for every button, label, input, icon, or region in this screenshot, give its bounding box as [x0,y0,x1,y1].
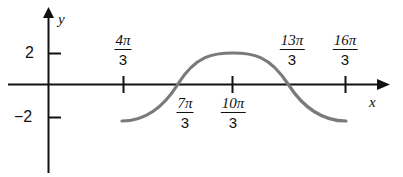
y-axis-label: y [58,12,65,27]
x-axis-arrowhead [377,79,390,90]
x-tick-label-7pi-3: 7π 3 [176,96,193,130]
x-tick-label-4pi-3-denominator: 3 [114,50,131,67]
y-axis [43,7,54,173]
x-axis [8,79,390,90]
x-tick-label-4pi-3-numerator: 4π [114,33,131,50]
graph-figure: y x 2 −2 4π 3 7π 3 10π 3 13π 3 16π 3 [0,0,403,177]
x-tick-label-16pi-3-numerator: 16π [333,33,358,50]
x-tick-label-10pi-3: 10π 3 [221,96,246,130]
x-tick-label-16pi-3: 16π 3 [333,33,358,67]
x-tick-label-7pi-3-numerator: 7π [176,96,193,113]
y-tick-label-minus-2: −2 [14,109,32,125]
x-tick-label-4pi-3: 4π 3 [114,33,131,67]
x-tick-label-13pi-3: 13π 3 [280,33,305,67]
y-axis-arrowhead [43,7,54,18]
x-tick-label-13pi-3-numerator: 13π [280,33,305,50]
x-axis-label: x [369,95,376,110]
x-tick-label-10pi-3-numerator: 10π [221,96,246,113]
x-tick-label-16pi-3-denominator: 3 [333,50,358,67]
x-tick-label-10pi-3-denominator: 3 [221,113,246,130]
y-tick-label-2: 2 [25,45,34,61]
x-tick-label-7pi-3-denominator: 3 [176,113,193,130]
x-tick-label-13pi-3-denominator: 3 [280,50,305,67]
